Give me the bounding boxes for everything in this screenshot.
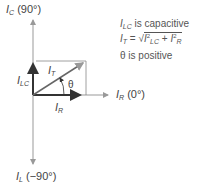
note-capacitive: ILC is capacitive xyxy=(120,18,189,30)
label-ir: IR xyxy=(55,101,63,114)
label-theta: θ xyxy=(68,79,74,90)
label-ilc: ILC xyxy=(17,74,29,87)
note-theta: θ is positive xyxy=(120,50,172,61)
vector-it xyxy=(33,63,83,95)
theta-arc xyxy=(60,78,64,95)
note-formula: IT = √I2LC + I2R xyxy=(120,33,182,45)
label-ir-axis: IR (0°) xyxy=(116,88,145,101)
label-ic: IC (90°) xyxy=(6,3,41,16)
label-it: IT xyxy=(48,64,55,77)
label-il: IL (−90°) xyxy=(16,170,56,183)
